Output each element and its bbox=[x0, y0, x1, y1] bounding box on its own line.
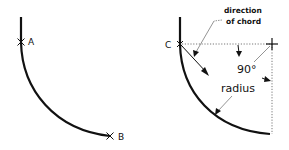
angle-arrow-top-icon bbox=[236, 45, 242, 57]
diagram-canvas: A B C direction of bbox=[0, 0, 289, 150]
point-c-label: C bbox=[165, 40, 171, 50]
right-figure: C direction of chord 90° bbox=[165, 6, 278, 134]
arc-a-to-b bbox=[21, 17, 110, 136]
angle-arrow-right-icon bbox=[262, 76, 271, 82]
point-a-label: A bbox=[28, 37, 35, 47]
left-figure: A B bbox=[18, 17, 125, 142]
point-b-label: B bbox=[118, 132, 124, 142]
chord-leader-line bbox=[193, 20, 222, 57]
chord-annotation-line1: direction bbox=[224, 6, 262, 15]
arc-curve bbox=[180, 17, 270, 134]
radius-leader-line bbox=[215, 96, 232, 115]
angle-label: 90° bbox=[237, 63, 257, 76]
chord-annotation-line2: of chord bbox=[226, 17, 261, 26]
radius-label: radius bbox=[221, 82, 255, 95]
center-diagonal-line bbox=[254, 46, 270, 62]
